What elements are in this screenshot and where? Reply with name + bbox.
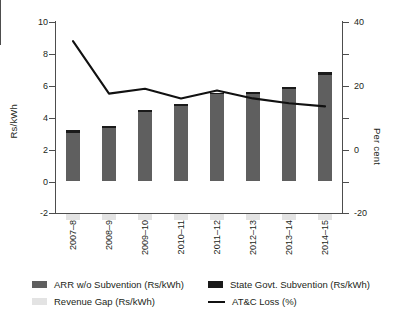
- x-axis-label-4: 2011–12: [212, 220, 222, 254]
- legend-item-subvention: State Govt. Subvention (Rs/kWh): [208, 279, 384, 290]
- right-tick-label-0: 0: [354, 146, 394, 155]
- legend-label: Revenue Gap (Rs/kWh): [54, 296, 155, 307]
- x-axis-label-6: 2013–14: [284, 220, 294, 255]
- legend-label: AT&C Loss (%): [232, 296, 297, 307]
- atc-loss-line-series: [56, 22, 342, 213]
- legend-label: State Govt. Subvention (Rs/kWh): [230, 279, 370, 290]
- left-tick-label-minus2: -2: [8, 209, 48, 218]
- right-tick-30-minor: [343, 54, 349, 55]
- left-tick-label-2: 2: [8, 146, 48, 155]
- revenue-gap-bar: [174, 214, 188, 220]
- left-tick-label-10: 10: [8, 18, 48, 27]
- x-axis-spine: [55, 213, 343, 214]
- x-axis-label-2: 2009–10: [140, 220, 150, 255]
- legend-item-atc-loss: AT&C Loss (%): [208, 296, 384, 307]
- right-tick-40: [343, 22, 349, 23]
- right-tick-minus20: [343, 213, 349, 214]
- x-axis-label-3: 2010–11: [176, 220, 186, 254]
- left-tick-label-8: 8: [8, 50, 48, 59]
- right-tick-10-minor: [343, 118, 349, 119]
- revenue-gap-bar: [102, 214, 116, 220]
- plot-area: [56, 22, 342, 213]
- chart-container: Rs/kWh 10 8 6 4 2 0 -2 Per cent 40 20 0 …: [0, 0, 395, 315]
- left-tick-label-4: 4: [8, 114, 48, 123]
- left-tick-0: [49, 182, 55, 183]
- left-tick-label-0: 0: [8, 178, 48, 187]
- right-tick-0: [343, 150, 349, 151]
- left-tick-4: [49, 118, 55, 119]
- x-axis-label-1: 2008–9: [104, 220, 114, 250]
- x-axis-label-5: 2012–13: [248, 220, 258, 255]
- right-tick-minus10-minor: [343, 182, 349, 183]
- atc-loss-line: [73, 41, 325, 106]
- legend-swatch-icon: [32, 298, 47, 305]
- revenue-gap-bar: [138, 214, 152, 220]
- left-tick-2: [49, 150, 55, 151]
- revenue-gap-bar: [246, 214, 260, 220]
- x-tick-8: [0, 40, 1, 45]
- legend-swatch-icon: [208, 281, 223, 288]
- revenue-gap-bar: [282, 214, 296, 220]
- right-tick-label-40: 40: [354, 18, 394, 27]
- revenue-gap-bar: [318, 214, 332, 220]
- right-tick-label-20: 20: [354, 82, 394, 91]
- legend-item-revenue-gap: Revenue Gap (Rs/kWh): [32, 296, 208, 307]
- left-tick-6: [49, 86, 55, 87]
- x-axis-label-7: 2014–15: [320, 220, 330, 255]
- right-tick-label-minus20: -20: [354, 209, 394, 218]
- legend-line-icon: [208, 301, 225, 303]
- x-axis-label-0: 2007–8: [68, 220, 78, 250]
- left-tick-8: [49, 54, 55, 55]
- legend-label: ARR w/o Subvention (Rs/kWh): [54, 279, 184, 290]
- legend-swatch-icon: [32, 281, 47, 288]
- chart-legend: ARR w/o Subvention (Rs/kWh) State Govt. …: [32, 276, 372, 310]
- left-tick-10: [49, 22, 55, 23]
- left-tick-label-6: 6: [8, 82, 48, 91]
- right-tick-20: [343, 86, 349, 87]
- revenue-gap-bar: [210, 214, 224, 220]
- legend-item-arr: ARR w/o Subvention (Rs/kWh): [32, 279, 208, 290]
- revenue-gap-bar: [66, 214, 80, 220]
